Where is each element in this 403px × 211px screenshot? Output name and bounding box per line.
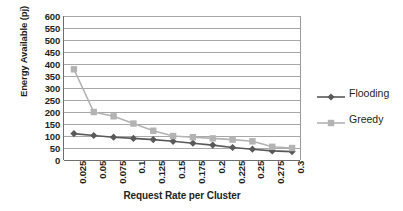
y-tick-label: 200 [24, 108, 60, 117]
data-point-marker [110, 113, 116, 119]
legend-key-diamond-icon [316, 92, 346, 102]
x-tick-label: 0.175 [196, 161, 207, 184]
data-point-marker [170, 133, 176, 139]
y-tick-label: 300 [24, 84, 60, 93]
y-tick-label: 100 [24, 132, 60, 141]
y-tick-label: 600 [24, 12, 60, 21]
legend-key-square-icon [316, 118, 346, 128]
y-tick-label: 0 [24, 156, 60, 165]
data-point-marker [327, 93, 334, 100]
x-tick-label: 0.025 [77, 161, 88, 184]
data-point-marker [249, 138, 255, 144]
y-tick-label: 350 [24, 72, 60, 81]
data-point-marker [189, 140, 196, 147]
data-point-marker [130, 135, 137, 142]
data-point-marker [110, 134, 117, 141]
data-point-marker [150, 136, 157, 143]
data-point-marker [90, 132, 97, 139]
energy-availability-line-chart: Energy Available (pj) 600550500450400350… [0, 0, 403, 211]
data-point-marker [269, 144, 275, 150]
x-tick-label: 0.1 [136, 161, 147, 174]
x-tick-label: 0.125 [156, 161, 167, 184]
x-tick-label: 0.05 [97, 161, 108, 179]
y-axis-tick-labels: 600550500450400350300250200150100500 [24, 11, 60, 163]
x-axis-tick-labels: 0.0250.050.0750.10.1250.150.1750.20.2250… [63, 161, 301, 191]
chart-legend: FloodingGreedy [316, 86, 402, 138]
legend-item-flooding[interactable]: Flooding [316, 86, 402, 112]
data-point-marker [130, 120, 136, 126]
data-point-marker [71, 66, 77, 72]
y-tick-label: 250 [24, 96, 60, 105]
x-axis-title: Request Rate per Cluster [63, 190, 301, 201]
data-point-marker [210, 135, 216, 141]
y-tick-label: 400 [24, 60, 60, 69]
x-tick-label: 0.075 [117, 161, 128, 184]
legend-item-greedy[interactable]: Greedy [316, 112, 402, 138]
data-point-marker [209, 142, 216, 149]
data-point-marker [249, 146, 256, 153]
y-tick-label: 50 [24, 144, 60, 153]
series-layer [64, 16, 302, 160]
x-tick-label: 0.25 [255, 161, 266, 179]
x-tick-label: 0.2 [216, 161, 227, 174]
data-point-marker [70, 130, 77, 137]
data-point-marker [91, 109, 97, 115]
x-tick-label: 0.15 [176, 161, 187, 179]
data-point-marker [150, 128, 156, 134]
y-tick-label: 500 [24, 36, 60, 45]
x-tick-label: 0.3 [295, 161, 306, 174]
y-tick-label: 150 [24, 120, 60, 129]
data-point-marker [190, 134, 196, 140]
legend-label: Greedy [349, 113, 383, 125]
data-point-marker [328, 120, 334, 126]
data-point-marker [289, 145, 295, 151]
x-tick-label: 0.225 [236, 161, 247, 184]
y-tick-label: 550 [24, 24, 60, 33]
data-point-marker [229, 136, 235, 142]
x-tick-label: 0.275 [275, 161, 286, 184]
y-tick-label: 450 [24, 48, 60, 57]
legend-label: Flooding [349, 87, 389, 99]
plot-area [63, 16, 301, 160]
data-point-marker [229, 144, 236, 151]
